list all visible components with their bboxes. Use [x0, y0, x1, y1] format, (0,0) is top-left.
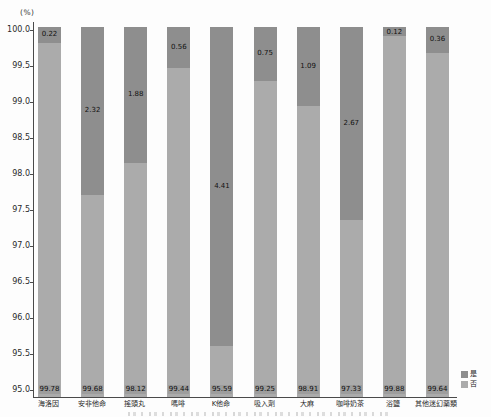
y-axis-tick-mark: [30, 138, 33, 139]
bar-6: 0.7599.25: [254, 27, 277, 397]
y-axis-tick-label: 97.5: [0, 206, 30, 214]
y-axis-tick-label: 98.5: [0, 134, 30, 142]
y-axis-tick-label: 96.0: [0, 314, 30, 322]
yes-value-label: 4.41: [204, 182, 239, 190]
yes-value-label: 0.36: [420, 35, 455, 43]
no-value-label: 97.33: [341, 385, 362, 394]
x-axis-category-label: 其他迷幻藥類: [404, 400, 468, 409]
bar-2: 2.3299.68: [81, 27, 104, 397]
no-value-label: 95.59: [211, 385, 232, 394]
bar-segment-no: [297, 106, 320, 397]
bar-segment-no: [167, 68, 190, 397]
legend-swatch-no: [461, 381, 468, 388]
bar-4: 0.5699.44: [167, 27, 190, 397]
plot-area: 0.2299.782.3299.681.8898.120.5699.444.41…: [33, 22, 457, 398]
y-axis-tick-mark: [30, 66, 33, 67]
y-axis-tick-mark: [30, 102, 33, 103]
bar-10: 0.3699.64: [426, 27, 449, 397]
y-axis-tick-mark: [30, 210, 33, 211]
bar-segment-no: [124, 163, 147, 397]
yes-value-label: 0.56: [161, 43, 196, 51]
bar-9: 0.1299.88: [383, 27, 406, 397]
y-axis-tick-label: 99.0: [0, 98, 30, 106]
y-axis-tick-label: 100.0: [0, 26, 30, 34]
legend-item-yes: 是: [461, 369, 477, 379]
yes-value-label: 2.32: [75, 106, 110, 114]
no-value-label: 99.64: [427, 385, 448, 394]
no-value-label: 99.88: [384, 385, 405, 394]
bar-8: 2.6797.33: [340, 27, 363, 397]
y-axis-tick-mark: [30, 246, 33, 247]
y-axis-unit-label: (%): [20, 8, 34, 17]
bar-3: 1.8898.12: [124, 27, 147, 397]
y-axis-tick-label: 96.5: [0, 278, 30, 286]
no-value-label: 99.68: [82, 385, 103, 394]
bar-5: 4.4195.59: [210, 27, 233, 397]
y-axis-tick-label: 98.0: [0, 170, 30, 178]
stacked-bar-chart: (%) 0.2299.782.3299.681.8898.120.5699.44…: [0, 0, 491, 417]
yes-value-label: 0.75: [248, 49, 283, 57]
bar-segment-no: [426, 53, 449, 397]
no-value-label: 98.91: [298, 385, 319, 394]
no-value-label: 99.25: [255, 385, 276, 394]
bar-segment-no: [38, 43, 61, 397]
bar-1: 0.2299.78: [38, 27, 61, 397]
no-value-label: 98.12: [125, 385, 146, 394]
y-axis-tick-mark: [30, 318, 33, 319]
y-axis-tick-label: 99.5: [0, 62, 30, 70]
yes-value-label: 0.22: [32, 30, 67, 38]
y-axis-tick-mark: [30, 390, 33, 391]
y-axis-tick-label: 95.0: [0, 386, 30, 394]
y-axis-tick-mark: [30, 174, 33, 175]
legend-swatch-yes: [461, 371, 468, 378]
bar-segment-no: [81, 195, 104, 397]
y-axis-tick-mark: [30, 354, 33, 355]
legend-label-yes: 是: [470, 370, 477, 378]
bar-segment-no: [254, 81, 277, 397]
no-value-label: 99.78: [39, 385, 60, 394]
yes-value-label: 0.12: [377, 28, 412, 36]
bar-segment-no: [340, 220, 363, 397]
y-axis-tick-mark: [30, 30, 33, 31]
y-axis-tick-label: 97.0: [0, 242, 30, 250]
legend-label-no: 否: [470, 380, 477, 388]
legend-item-no: 否: [461, 379, 477, 389]
no-value-label: 99.44: [168, 385, 189, 394]
legend: 是 否: [461, 369, 477, 389]
yes-value-label: 2.67: [334, 119, 369, 127]
yes-value-label: 1.09: [291, 62, 326, 70]
cropped-caption-remnant: [128, 412, 392, 416]
yes-value-label: 1.88: [118, 90, 153, 98]
y-axis-tick-label: 95.5: [0, 350, 30, 358]
bar-7: 1.0998.91: [297, 27, 320, 397]
y-axis-tick-mark: [30, 282, 33, 283]
bar-segment-no: [383, 36, 406, 397]
